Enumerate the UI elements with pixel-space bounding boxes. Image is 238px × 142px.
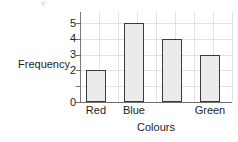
bars-layer	[80, 12, 232, 102]
y-tick-mark-4	[76, 39, 81, 40]
bar-chart-figure: y Frequency 012345 RedBlueGreen Colours	[0, 0, 238, 142]
y-tick-mark-3	[76, 55, 81, 56]
bar-red[interactable]	[86, 70, 106, 102]
x-axis-line	[80, 102, 232, 103]
y-tick-mark-0	[76, 102, 81, 103]
y-tick-label-4: 4	[62, 33, 76, 44]
bar-blue[interactable]	[124, 23, 144, 102]
y-tick-label-5: 5	[62, 18, 76, 29]
x-tick-label-blue: Blue	[110, 104, 158, 116]
plot-area	[80, 12, 232, 102]
bar-unlabeled-2[interactable]	[162, 39, 182, 102]
x-axis-title: Colours	[80, 121, 232, 133]
gridline-vertical	[232, 12, 233, 102]
clipped-text-artifact: y	[41, 0, 50, 6]
y-axis-line	[80, 12, 81, 103]
y-tick-mark-2	[76, 70, 81, 71]
y-tick-mark-1	[76, 86, 81, 87]
bar-green[interactable]	[200, 55, 220, 102]
y-tick-label-3: 3	[62, 49, 76, 60]
y-tick-mark-5	[76, 23, 81, 24]
x-tick-label-green: Green	[186, 104, 234, 116]
y-tick-label-2: 2	[62, 65, 76, 76]
y-axis-title: Frequency	[2, 58, 70, 70]
